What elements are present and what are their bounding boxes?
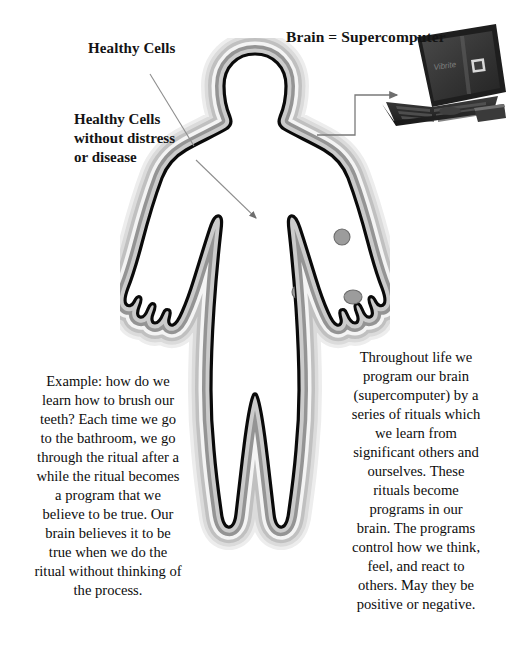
screen-logo-inner — [474, 61, 483, 70]
healthy-cell-dot — [334, 229, 350, 245]
label-brain-supercomputer: Brain = Supercomputer — [286, 28, 446, 46]
text-line: without distress — [74, 129, 175, 148]
text-line: significant others and — [330, 443, 502, 462]
text-line: ritual without thinking of — [12, 562, 204, 581]
diagram-page: Vibrite — [0, 0, 509, 660]
text-line: or disease — [74, 148, 175, 167]
healthy-cell-dot — [344, 290, 362, 304]
text-line: Healthy Cells — [74, 110, 175, 129]
text-line: learn how to brush our — [12, 391, 204, 410]
text-line: teeth? Each time we go — [12, 410, 204, 429]
text-line: through the ritual after a — [12, 448, 204, 467]
text-line: we learn from — [330, 424, 502, 443]
text-line: rituals become — [330, 481, 502, 500]
text-line: brain believes it to be — [12, 524, 204, 543]
text-line: brain. The programs — [330, 519, 502, 538]
text-line: Example: how do we — [12, 372, 204, 391]
label-healthy-cells: Healthy Cells — [88, 40, 176, 58]
text-line: the process. — [12, 581, 204, 600]
text-line: feel, and react to — [330, 557, 502, 576]
text-line: while the ritual becomes — [12, 467, 204, 486]
text-line: Throughout life we — [330, 348, 502, 367]
label-healthy-cells-detail: Healthy Cellswithout distressor disease — [74, 110, 175, 168]
text-line: programs in our — [330, 500, 502, 519]
text-line: control how we think, — [330, 538, 502, 557]
text-line: a program that we — [12, 486, 204, 505]
paragraph-brain-programming: Throughout life weprogram our brain(supe… — [330, 348, 502, 614]
text-line: to the bathroom, we go — [12, 429, 204, 448]
text-line: ourselves. These — [330, 462, 502, 481]
text-line: series of rituals which — [330, 405, 502, 424]
text-line: believe to be true. Our — [12, 505, 204, 524]
text-line: true when we do the — [12, 543, 204, 562]
text-line: (supercomputer) by a — [330, 386, 502, 405]
paragraph-example-ritual: Example: how do welearn how to brush our… — [12, 372, 204, 600]
text-line: program our brain — [330, 367, 502, 386]
laptop-trackpad — [439, 107, 461, 115]
text-line: positive or negative. — [330, 595, 502, 614]
healthy-cell-dot — [385, 191, 391, 206]
text-line: others. May they be — [330, 576, 502, 595]
